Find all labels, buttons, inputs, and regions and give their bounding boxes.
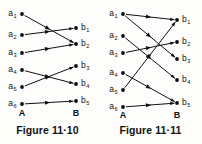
node-label-a2: a2 — [109, 30, 117, 41]
node-dot-b5 — [175, 101, 179, 105]
edge-layer — [125, 14, 176, 107]
edge-arrowhead — [146, 103, 151, 107]
node-subscript-a5: 5 — [114, 89, 117, 95]
node-dot-b2 — [175, 40, 179, 44]
node-dot-a6 — [20, 102, 24, 106]
node-dot-b4 — [175, 78, 179, 82]
figure-caption-11-10: Figure 11·10 — [0, 124, 101, 136]
set-label-A: A — [120, 110, 127, 118]
edge-arrowhead — [45, 25, 51, 29]
node-label-a1: a1 — [109, 8, 117, 19]
node-subscript-a4: 4 — [114, 72, 117, 78]
node-dot-a5 — [121, 88, 125, 92]
node-label-b5: b5 — [81, 95, 89, 106]
node-dot-a3 — [20, 51, 24, 55]
edge-arrowhead — [146, 46, 152, 50]
edge-arrowhead — [45, 101, 50, 105]
node-dot-b3 — [74, 64, 78, 68]
node-dot-a1 — [20, 12, 24, 16]
set-label-B: B — [73, 108, 80, 118]
node-label-b4: b4 — [182, 74, 190, 85]
node-dot-a4 — [20, 68, 24, 72]
node-dot-a1 — [121, 12, 125, 16]
node-subscript-b4: 4 — [187, 79, 190, 85]
node-label-b4: b4 — [81, 78, 89, 89]
figure-panel-11-10: a1a2a3a4a5a6b1b2b3b4b5 A B Figure 11·10 — [0, 0, 101, 144]
set-label-B: B — [174, 110, 181, 118]
node-subscript-b3: 3 — [86, 65, 89, 71]
node-dot-b4 — [74, 82, 78, 86]
node-subscript-a3: 3 — [13, 52, 16, 58]
node-subscript-b3: 3 — [187, 58, 190, 64]
node-dot-b2 — [74, 42, 78, 46]
node-subscript-b1: 1 — [187, 19, 190, 25]
node-subscript-b2: 2 — [86, 43, 89, 49]
node-label-a1: a1 — [8, 8, 16, 19]
node-dot-a2 — [121, 34, 125, 38]
node-label-b2: b2 — [182, 36, 190, 47]
node-label-b1: b1 — [182, 14, 190, 25]
node-dot-a3 — [121, 51, 125, 55]
node-label-b2: b2 — [81, 38, 89, 49]
node-label-a5: a5 — [109, 84, 117, 95]
node-dot-b5 — [74, 99, 78, 103]
node-label-b5: b5 — [182, 97, 190, 108]
figure-panel-11-11: a1a2a3a4a5a6b1b2b3b4b5 A B Figure 11·11 — [101, 0, 202, 144]
figure-page: a1a2a3a4a5a6b1b2b3b4b5 A B Figure 11·10 … — [0, 0, 202, 144]
edge-arrowhead — [45, 30, 50, 34]
edge-arrowhead — [170, 98, 174, 102]
node-dot-b1 — [175, 18, 179, 22]
edge-arrowhead — [69, 81, 73, 84]
node-label-b3: b3 — [182, 53, 190, 64]
bipartite-diagram-11-10: a1a2a3a4a5a6b1b2b3b4b5 A B — [0, 0, 101, 118]
bipartite-diagram-11-11: a1a2a3a4a5a6b1b2b3b4b5 A B — [101, 0, 202, 118]
node-dot-b1 — [74, 26, 78, 30]
node-subscript-a3: 3 — [114, 52, 117, 58]
node-dot-a6 — [121, 105, 125, 109]
node-label-a6: a6 — [109, 101, 117, 112]
node-label-a3: a3 — [109, 47, 117, 58]
node-subscript-b1: 1 — [86, 27, 89, 33]
edge-arrowhead — [45, 76, 51, 80]
node-dot-a2 — [20, 33, 24, 37]
node-subscript-a2: 2 — [13, 34, 16, 40]
edge-layer — [25, 15, 74, 104]
node-layer: a1a2a3a4a5a6b1b2b3b4b5 — [8, 8, 89, 109]
node-subscript-a6: 6 — [114, 106, 117, 112]
edge-arrowhead — [170, 102, 174, 105]
node-subscript-a5: 5 — [13, 86, 16, 92]
node-subscript-b4: 4 — [86, 83, 89, 89]
node-subscript-a1: 1 — [13, 13, 16, 19]
edge-arrowhead — [69, 100, 73, 103]
node-label-a4: a4 — [8, 64, 16, 75]
node-subscript-a2: 2 — [114, 35, 117, 41]
edge-arrowhead — [69, 67, 74, 70]
node-label-a3: a3 — [8, 47, 16, 58]
node-label-b3: b3 — [81, 60, 89, 71]
edge-arrowhead — [69, 43, 73, 46]
node-subscript-b2: 2 — [187, 41, 190, 47]
node-subscript-a6: 6 — [13, 103, 16, 109]
edge-arrowhead — [146, 84, 152, 88]
node-dot-b3 — [175, 57, 179, 61]
node-label-a4: a4 — [109, 67, 117, 78]
node-label-a2: a2 — [8, 29, 16, 40]
edge-arrowhead — [69, 39, 73, 43]
node-subscript-a4: 4 — [13, 69, 16, 75]
node-subscript-a1: 1 — [114, 13, 117, 19]
figure-caption-11-11: Figure 11·11 — [101, 124, 202, 136]
node-label-a6: a6 — [8, 98, 16, 109]
node-label-b1: b1 — [81, 22, 89, 33]
node-dot-a4 — [121, 71, 125, 75]
node-subscript-b5: 5 — [86, 100, 89, 106]
node-subscript-b5: 5 — [187, 102, 190, 108]
edge-arrowhead — [45, 47, 50, 51]
set-label-A: A — [19, 108, 26, 118]
node-layer: a1a2a3a4a5a6b1b2b3b4b5 — [109, 8, 190, 112]
node-label-a5: a5 — [8, 81, 16, 92]
node-dot-a5 — [20, 85, 24, 89]
